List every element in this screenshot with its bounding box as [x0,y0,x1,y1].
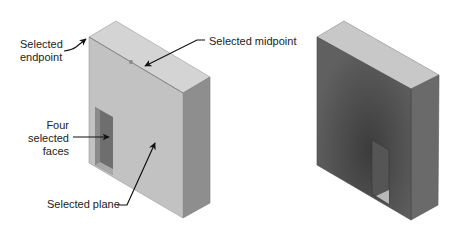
midpoint-label-text: Selected midpoint [209,35,296,47]
endpoint-label-line1: Selected [20,38,63,51]
left-block-side-face [183,77,210,218]
faces-label: Four selected faces [20,119,69,158]
endpoint-label-line2: endpoint [20,51,63,64]
left-block [89,21,210,218]
plane-label-text: Selected plane [47,198,120,210]
endpoint-arrow [64,39,86,51]
plane-label: Selected plane [47,198,120,211]
right-block [317,21,439,220]
faces-label-line1: Four [20,119,69,132]
left-block-hole-inner-left [95,107,100,165]
faces-label-line2: selected [20,132,69,145]
faces-label-line3: faces [20,145,69,158]
midpoint-marker [129,60,133,64]
midpoint-label: Selected midpoint [209,35,296,48]
right-block-side-face [411,75,439,220]
endpoint-label: Selected endpoint [20,38,63,64]
